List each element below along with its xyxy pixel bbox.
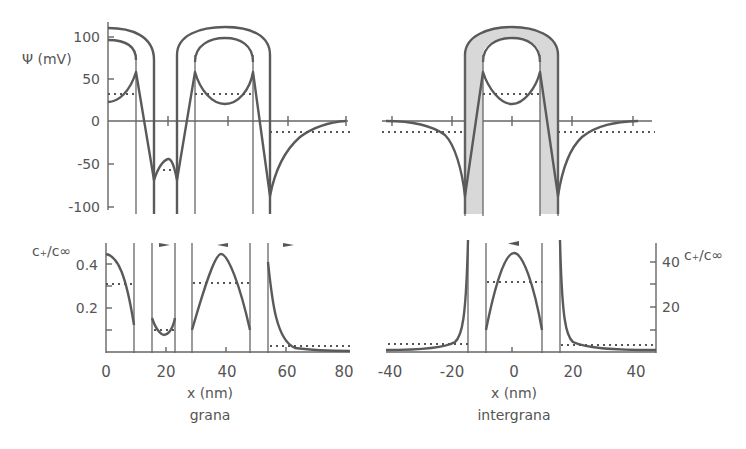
y-tick-50: 50: [82, 71, 100, 87]
y-tick-0.2: 0.2: [76, 300, 98, 316]
x-axis-label: x (nm): [187, 385, 233, 401]
x-tick-20: 20: [156, 363, 175, 381]
x-tick-minus20: -20: [440, 363, 465, 381]
x-tick-60: 60: [277, 363, 296, 381]
arrow-right-icon: [283, 243, 294, 247]
arrow-right-icon: [159, 243, 170, 247]
x-axis-label: x (nm): [491, 385, 537, 401]
figure: .ax { stroke:#666; stroke-width:1.4; fil…: [0, 0, 746, 449]
arrow-left-icon: [217, 243, 228, 247]
x-tick-20: 20: [563, 363, 582, 381]
conc-curve-4: [268, 262, 350, 351]
y-tick-minus100: -100: [68, 199, 100, 215]
grana-potential-panel: 100 50 0 -50 -100 Ψ (mV): [22, 22, 352, 215]
x-tick-80: 80: [334, 363, 353, 381]
potential-curve: [108, 72, 346, 196]
y-tick-100: 100: [73, 29, 100, 45]
conc-curve-right: [560, 240, 656, 350]
potential-curve: [386, 72, 638, 196]
x-tick-0: 0: [101, 363, 111, 381]
y-axis-label-conc-right: c₊/c∞: [684, 247, 723, 263]
intergrana-concentration-panel: 40 20 c₊/c∞ -40 -20 0 20 40 x (nm) inter…: [378, 240, 723, 423]
conc-curve-left: [386, 240, 468, 350]
y-axis-label-psi: Ψ (mV): [22, 51, 72, 67]
x-tick-0: 0: [509, 363, 519, 381]
inner-arch-left: [108, 40, 136, 60]
y-tick-20: 20: [662, 299, 680, 315]
panel-caption-grana: grana: [190, 407, 231, 423]
y-axis-label-conc: c₊/c∞: [32, 243, 71, 259]
y-tick-0: 0: [91, 113, 100, 129]
conc-curve-2: [152, 318, 175, 335]
panel-caption-intergrana: intergrana: [477, 407, 550, 423]
y-tick-minus50: -50: [77, 156, 100, 172]
y-tick-0.4: 0.4: [76, 257, 98, 273]
conc-curve-center: [486, 253, 542, 330]
x-tick-40: 40: [626, 363, 645, 381]
conc-curve-3: [192, 254, 250, 330]
inner-arch-middle: [195, 38, 253, 62]
x-tick-minus40: -40: [378, 363, 403, 381]
grana-concentration-panel: 0.4 0.2 c₊/c∞ 0 20 40 60 80 x (nm) grana: [32, 243, 354, 423]
x-tick-40: 40: [217, 363, 236, 381]
intergrana-potential-panel: [382, 27, 655, 216]
arrow-left-icon: [508, 241, 519, 246]
y-tick-40: 40: [662, 254, 680, 270]
